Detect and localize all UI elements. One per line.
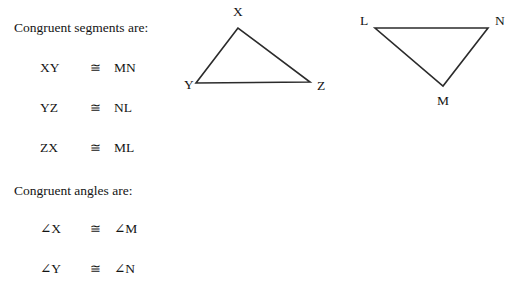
segment-left-term: XY <box>40 59 80 77</box>
angle-right-term: ∠N <box>114 260 135 278</box>
vertex-label-x: X <box>233 4 243 19</box>
angle-right-term: ∠M <box>114 220 137 238</box>
angles-heading: Congruent angles are: <box>14 183 132 199</box>
vertex-label-l: L <box>360 13 368 28</box>
worksheet-page: Congruent segments are: XY ≅ MN YZ ≅ NL … <box>0 0 525 306</box>
triangle-xyz-outline <box>196 28 310 83</box>
congruence-statements-column: Congruent segments are: XY ≅ MN YZ ≅ NL … <box>0 0 200 306</box>
congruence-symbol: ≅ <box>86 220 104 238</box>
segment-right-term: ML <box>114 139 134 157</box>
triangle-figures: X Y Z L M N <box>180 0 525 120</box>
congruence-symbol: ≅ <box>86 59 104 77</box>
angle-congruence-row: ∠X ≅ ∠M <box>40 220 190 238</box>
segment-congruence-row: XY ≅ MN <box>40 59 190 77</box>
angle-congruence-row: ∠Y ≅ ∠N <box>40 260 190 278</box>
segment-left-term: ZX <box>40 139 80 157</box>
segment-left-term: YZ <box>40 99 80 117</box>
vertex-label-n: N <box>495 13 505 28</box>
congruence-symbol: ≅ <box>86 260 104 278</box>
congruence-symbol: ≅ <box>86 139 104 157</box>
congruence-symbol: ≅ <box>86 99 104 117</box>
vertex-label-y: Y <box>184 77 194 92</box>
vertex-label-m: M <box>437 93 449 108</box>
angle-left-term: ∠Y <box>40 260 80 278</box>
vertex-label-z: Z <box>317 78 325 93</box>
segment-right-term: NL <box>114 99 132 117</box>
segment-congruence-row: YZ ≅ NL <box>40 99 190 117</box>
triangle-lmn-outline <box>375 28 488 86</box>
segment-right-term: MN <box>114 59 136 77</box>
segments-heading: Congruent segments are: <box>14 20 148 36</box>
triangles-diagram: X Y Z L M N <box>180 0 525 120</box>
angle-left-term: ∠X <box>40 220 80 238</box>
segment-congruence-row: ZX ≅ ML <box>40 139 190 157</box>
